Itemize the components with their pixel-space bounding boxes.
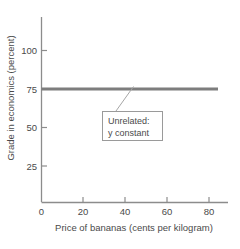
annotation-line-2: y constant [108,128,150,138]
x-tick-label-40: 40 [120,206,131,217]
x-tick-label-20: 20 [78,206,89,217]
y-tick-label-75: 75 [26,84,37,95]
y-axis-title: Grade in economics (percent) [5,35,16,160]
x-axis-title: Price of bananas (cents per kilogram) [55,222,213,233]
annotation-line-1: Unrelated: [108,116,150,126]
x-tick-label-0: 0 [39,206,44,217]
x-tick-label-80: 80 [204,206,215,217]
y-tick-label-25: 25 [26,161,37,172]
y-tick-label-50: 50 [26,122,37,133]
x-tick-label-60: 60 [162,206,173,217]
chart-figure: 100 75 50 25 0 20 40 60 80 Unrelated: y … [0,0,240,249]
y-tick-label-100: 100 [21,45,37,56]
scatter-plot-canvas: 100 75 50 25 0 20 40 60 80 Unrelated: y … [0,0,240,249]
